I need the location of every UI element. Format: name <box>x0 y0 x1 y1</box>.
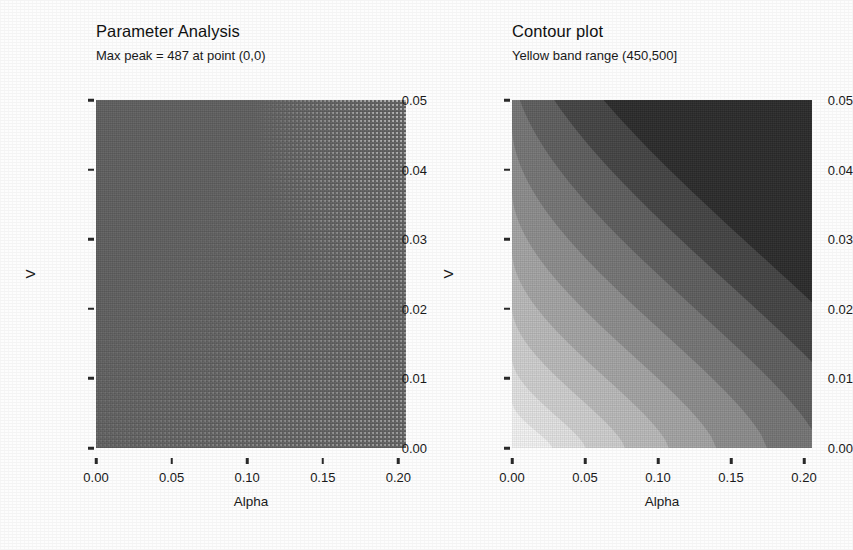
ytick-mark-y5 <box>504 99 510 102</box>
ytick-mark-y4 <box>88 168 94 171</box>
xtick-label-x0: 0.00 <box>83 470 108 485</box>
ytick-mark-y1 <box>504 377 510 380</box>
panel-parameter-analysis: Parameter Analysis Max peak = 487 at poi… <box>0 0 427 550</box>
panel-contour-plot: Contour plot Yellow band range (450,500]… <box>427 0 853 550</box>
xtick-mark-x4 <box>397 458 400 464</box>
panel-title: Contour plot <box>512 22 603 41</box>
ytick-label-y5: 0.05 <box>778 93 853 108</box>
ytick-mark-y3 <box>88 238 94 241</box>
axis-label-y: V <box>23 269 38 278</box>
panel-title: Parameter Analysis <box>96 22 240 41</box>
xtick-label-x3: 0.15 <box>310 470 335 485</box>
xtick-label-x1: 0.05 <box>572 470 597 485</box>
ytick-mark-y5 <box>88 99 94 102</box>
ytick-label-y2: 0.02 <box>341 301 427 316</box>
xtick-label-x2: 0.10 <box>235 470 260 485</box>
ytick-label-y4: 0.04 <box>341 162 427 177</box>
ytick-label-y4: 0.04 <box>778 162 853 177</box>
ytick-label-y1: 0.01 <box>778 371 853 386</box>
ytick-label-y3: 0.03 <box>778 232 853 247</box>
xtick-mark-x3 <box>322 458 325 464</box>
ytick-mark-y3 <box>504 238 510 241</box>
axis-label-y: V <box>441 269 456 278</box>
xtick-mark-x1 <box>170 458 173 464</box>
ytick-mark-y2 <box>504 308 510 311</box>
xtick-label-x4: 0.20 <box>386 470 411 485</box>
plot-area-parameter-analysis <box>96 100 406 448</box>
axis-label-x: Alpha <box>234 494 269 509</box>
xtick-label-x4: 0.20 <box>791 470 816 485</box>
xtick-label-x2: 0.10 <box>645 470 670 485</box>
ytick-mark-y1 <box>88 377 94 380</box>
ytick-label-y3: 0.03 <box>341 232 427 247</box>
xtick-label-x1: 0.05 <box>159 470 184 485</box>
xtick-mark-x2 <box>657 458 660 464</box>
xtick-label-x0: 0.00 <box>499 470 524 485</box>
xtick-mark-x3 <box>730 458 733 464</box>
ytick-mark-y2 <box>88 308 94 311</box>
ytick-label-y1: 0.01 <box>341 371 427 386</box>
ytick-mark-y0 <box>88 447 94 450</box>
plot-area-contour-plot <box>512 100 812 448</box>
ytick-label-y5: 0.05 <box>341 93 427 108</box>
xtick-mark-x0 <box>95 458 98 464</box>
xtick-mark-x0 <box>511 458 514 464</box>
sampling-dots-corner-texture <box>96 100 406 448</box>
contour-bands <box>512 100 812 448</box>
ytick-label-y0: 0.00 <box>341 441 427 456</box>
ytick-label-y2: 0.02 <box>778 301 853 316</box>
axis-label-x: Alpha <box>645 494 680 509</box>
xtick-mark-x4 <box>803 458 806 464</box>
ytick-mark-y0 <box>504 447 510 450</box>
panel-subtitle: Yellow band range (450,500] <box>512 48 677 63</box>
ytick-label-y0: 0.00 <box>778 441 853 456</box>
xtick-mark-x2 <box>246 458 249 464</box>
figure-canvas: Parameter Analysis Max peak = 487 at poi… <box>0 0 853 550</box>
xtick-label-x3: 0.15 <box>718 470 743 485</box>
ytick-mark-y4 <box>504 168 510 171</box>
panel-subtitle: Max peak = 487 at point (0,0) <box>96 48 265 63</box>
xtick-mark-x1 <box>584 458 587 464</box>
